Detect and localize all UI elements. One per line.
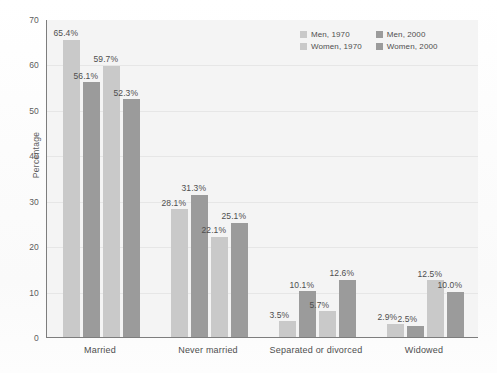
bar-group: 2.9%2.5%12.5%10.0% bbox=[387, 20, 464, 337]
legend-swatch-icon bbox=[300, 43, 307, 50]
y-axis-tick-label: 70 bbox=[9, 15, 39, 25]
bar-value-label: 12.5% bbox=[418, 269, 443, 279]
y-axis-tick-label: 50 bbox=[9, 106, 39, 116]
bar[interactable]: 2.9% bbox=[387, 324, 404, 337]
bar-group: 28.1%31.3%22.1%25.1% bbox=[171, 20, 248, 337]
bar-value-label: 22.1% bbox=[202, 225, 227, 235]
bar[interactable]: 25.1% bbox=[231, 223, 248, 337]
legend-label: Women, 1970 bbox=[311, 42, 362, 51]
legend-item[interactable]: Men, 2000 bbox=[376, 28, 438, 40]
bar-value-label: 12.6% bbox=[330, 268, 355, 278]
x-axis-category-label: Widowed bbox=[370, 345, 478, 355]
bar-value-label: 52.3% bbox=[114, 88, 139, 98]
bar[interactable]: 56.1% bbox=[83, 82, 100, 337]
bar-value-label: 2.9% bbox=[378, 312, 398, 322]
bar[interactable]: 12.6% bbox=[339, 280, 356, 337]
legend-swatch-icon bbox=[376, 31, 383, 38]
bar-value-label: 5.7% bbox=[310, 300, 330, 310]
x-axis-category-label: Separated or divorced bbox=[262, 345, 370, 355]
legend-swatch-icon bbox=[376, 43, 383, 50]
bar[interactable]: 5.7% bbox=[319, 311, 336, 337]
legend-label: Women, 2000 bbox=[387, 42, 438, 51]
legend-item[interactable]: Women, 1970 bbox=[300, 40, 362, 52]
y-axis-tick-label: 60 bbox=[9, 60, 39, 70]
grouped-bar-chart: Percentage 706050403020100 65.4%56.1%59.… bbox=[0, 0, 497, 373]
bar-value-label: 10.0% bbox=[438, 280, 463, 290]
x-axis-category-label: Married bbox=[46, 345, 154, 355]
y-axis-tick-label: 0 bbox=[9, 333, 39, 343]
bar[interactable]: 31.3% bbox=[191, 195, 208, 337]
bar[interactable]: 22.1% bbox=[211, 237, 228, 337]
bar[interactable]: 10.0% bbox=[447, 292, 464, 337]
bar-value-label: 10.1% bbox=[290, 280, 315, 290]
legend-item[interactable]: Women, 2000 bbox=[376, 40, 438, 52]
legend-swatch-icon bbox=[300, 31, 307, 38]
bar[interactable]: 10.1% bbox=[299, 291, 316, 337]
bar-value-label: 65.4% bbox=[54, 28, 79, 38]
bar-value-label: 25.1% bbox=[222, 211, 247, 221]
y-axis-tick-label: 30 bbox=[9, 197, 39, 207]
bar-group: 3.5%10.1%5.7%12.6% bbox=[279, 20, 356, 337]
legend-item[interactable]: Men, 1970 bbox=[300, 28, 362, 40]
bar-value-label: 59.7% bbox=[94, 54, 119, 64]
bar[interactable]: 3.5% bbox=[279, 321, 296, 337]
bar-value-label: 56.1% bbox=[74, 71, 99, 81]
y-axis-tick-label: 40 bbox=[9, 151, 39, 161]
x-axis-category-label: Never married bbox=[154, 345, 262, 355]
bar-value-label: 2.5% bbox=[398, 314, 418, 324]
legend-label: Men, 1970 bbox=[311, 30, 350, 39]
y-axis-tick-label: 10 bbox=[9, 288, 39, 298]
bar[interactable]: 65.4% bbox=[63, 40, 80, 337]
legend: Men, 1970Men, 2000Women, 1970Women, 2000 bbox=[300, 28, 438, 52]
bar[interactable]: 28.1% bbox=[171, 209, 188, 337]
bar[interactable]: 52.3% bbox=[123, 99, 140, 337]
bar[interactable]: 2.5% bbox=[407, 326, 424, 337]
plot-area: 65.4%56.1%59.7%52.3%28.1%31.3%22.1%25.1%… bbox=[46, 20, 478, 338]
bar-value-label: 28.1% bbox=[162, 198, 187, 208]
bar-value-label: 31.3% bbox=[182, 183, 207, 193]
y-axis-tick-label: 20 bbox=[9, 242, 39, 252]
legend-label: Men, 2000 bbox=[387, 30, 426, 39]
bar-group: 65.4%56.1%59.7%52.3% bbox=[63, 20, 140, 337]
bar[interactable]: 59.7% bbox=[103, 66, 120, 337]
bar-value-label: 3.5% bbox=[270, 310, 290, 320]
